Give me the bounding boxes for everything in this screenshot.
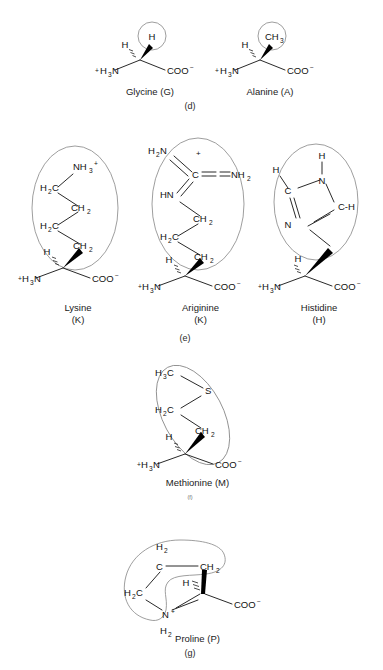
arginine-ch2-2: H 2 C	[160, 231, 179, 244]
histidine-amino-group: + H 3 N	[258, 281, 281, 294]
svg-text:2: 2	[216, 567, 220, 574]
arginine-central-carbon: C	[192, 169, 199, 180]
svg-text:H: H	[155, 404, 162, 415]
svg-text:3: 3	[89, 167, 93, 174]
proline-alpha-h-label: H	[183, 577, 190, 588]
svg-text:COO: COO	[167, 65, 189, 76]
svg-text:2: 2	[211, 431, 215, 438]
molecule-methionine: H 3 C S H 2 C CH 2 H + H 3 N COO	[135, 360, 260, 480]
methionine-amino-group: + H 3 N	[137, 459, 160, 472]
alanine-side-chain-label: CH 3	[265, 31, 284, 44]
methionine-sulfur-label: S	[205, 385, 211, 396]
histidine-ring-c-hydrogen: H	[273, 164, 280, 175]
arginine-caption-line1: Ariginine	[138, 302, 263, 314]
svg-text:H: H	[40, 182, 47, 193]
proline-carboxyl-group: COO −	[234, 598, 261, 610]
histidine-caption-line1: Histidine	[258, 302, 380, 314]
svg-text:C: C	[52, 220, 59, 231]
methionine-h2c-label: H 2 C	[155, 404, 174, 417]
lysine-caption-line2: (K)	[18, 314, 138, 326]
glycine-carboxyl-group: COO −	[167, 64, 194, 76]
amino-acid-figure: H H + H 3 N COO − Glycine (G) CH	[0, 0, 383, 670]
lysine-ch2-1: H 2 C	[40, 182, 59, 195]
arginine-caption-line2: (K)	[138, 314, 263, 326]
svg-text:−: −	[257, 598, 261, 605]
svg-text:CH: CH	[71, 202, 85, 213]
methionine-ch2-label: CH 2	[195, 425, 215, 438]
svg-text:−: −	[238, 458, 242, 465]
histidine-wedge-bond	[305, 248, 333, 276]
svg-text:COO: COO	[234, 599, 256, 610]
histidine-alpha-h-label: H	[295, 253, 302, 264]
alanine-amino-group: + H 3 N	[215, 65, 239, 78]
svg-text:N: N	[154, 281, 161, 292]
panel-label-g: (g)	[165, 648, 215, 658]
arginine-amino-group: + H 3 N	[138, 281, 161, 294]
glycine-amino-group: + H 3 N	[95, 65, 119, 78]
svg-text:COO: COO	[287, 65, 309, 76]
svg-text:3: 3	[280, 37, 284, 44]
svg-text:COO: COO	[334, 281, 356, 292]
svg-text:2: 2	[89, 246, 93, 253]
svg-text:H: H	[220, 65, 227, 76]
svg-text:N: N	[274, 281, 281, 292]
histidine-ring-nh-hydrogen: H	[319, 150, 326, 161]
lysine-caption-line1: Lysine	[18, 302, 138, 314]
svg-text:N: N	[153, 459, 160, 470]
glycine-caption: Glycine (G)	[95, 86, 205, 98]
svg-text:CH: CH	[265, 31, 279, 42]
molecule-lysine: NH 3 + H 2 C CH 2 H 2 C CH 2 H	[18, 140, 138, 300]
methionine-caption: Methionine (M)	[125, 477, 270, 489]
histidine-carboxyl-group: COO −	[334, 280, 361, 292]
proline-h2-top: H 2	[156, 541, 168, 554]
glycine-alpha-h-label: H	[122, 39, 129, 50]
svg-text:H: H	[40, 220, 47, 231]
svg-text:CH: CH	[195, 425, 209, 436]
methionine-alpha-h-label: H	[166, 431, 173, 442]
svg-text:−: −	[310, 64, 314, 71]
panel-label-d: (d)	[160, 101, 220, 111]
molecule-histidine: H N H C C-H N H + H 3 N COO −	[258, 140, 380, 300]
svg-text:CH: CH	[193, 213, 207, 224]
molecule-glycine: H H + H 3 N COO −	[95, 22, 205, 84]
svg-text:H: H	[155, 367, 162, 378]
svg-text:H: H	[156, 541, 163, 552]
lysine-alpha-h-label: H	[44, 246, 51, 257]
svg-text:H: H	[100, 65, 107, 76]
methionine-carboxyl-group: COO −	[215, 458, 242, 470]
molecule-arginine: H 2 N + C NH 2 HN CH 2 H 2 C CH 2	[138, 136, 263, 300]
lysine-ch2-2: CH 2	[71, 202, 91, 215]
svg-text:CH: CH	[73, 240, 87, 251]
svg-text:2: 2	[247, 175, 251, 182]
svg-text:COO: COO	[215, 459, 237, 470]
svg-text:−: −	[237, 280, 241, 287]
arginine-h2n-label: H 2 N	[148, 145, 167, 158]
alanine-alpha-h-label: H	[242, 39, 249, 50]
panel-label-f: (f)	[165, 494, 215, 500]
histidine-ring-c2: C	[285, 185, 292, 196]
histidine-ring-ch: C-H	[338, 201, 355, 212]
svg-text:H: H	[124, 587, 131, 598]
svg-text:NH: NH	[73, 161, 87, 172]
svg-text:N: N	[232, 65, 239, 76]
svg-text:C: C	[172, 231, 179, 242]
svg-text:C: C	[52, 182, 59, 193]
alanine-caption: Alanine (A)	[215, 86, 325, 98]
svg-text:+: +	[215, 67, 219, 74]
svg-text:2: 2	[164, 547, 168, 554]
proline-wedge-bond	[201, 570, 207, 594]
lysine-carboxyl-group: COO −	[92, 272, 119, 284]
svg-text:H: H	[148, 145, 155, 156]
arginine-carboxyl-group: COO −	[214, 280, 241, 292]
svg-text:H: H	[142, 281, 149, 292]
proline-nitrogen-label: N +	[162, 608, 175, 620]
svg-text:H: H	[22, 273, 29, 284]
alanine-wedge-bond	[260, 44, 273, 60]
alanine-carboxyl-group: COO −	[287, 64, 314, 76]
svg-text:+: +	[171, 608, 175, 615]
proline-caption: Proline (P)	[110, 633, 285, 645]
svg-text:H: H	[262, 281, 269, 292]
svg-text:C: C	[136, 587, 143, 598]
svg-text:N: N	[34, 273, 41, 284]
svg-text:−: −	[115, 272, 119, 279]
